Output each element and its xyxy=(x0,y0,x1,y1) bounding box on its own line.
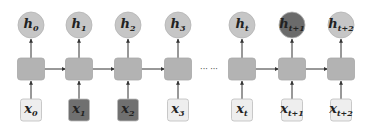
time-step-3: h3x3 xyxy=(165,12,192,121)
rnn-cell xyxy=(165,58,192,80)
time-step-t+2: ht+2xt+2 xyxy=(328,12,355,121)
time-step-2: h2x2 xyxy=(115,12,165,121)
rnn-cell xyxy=(279,58,306,80)
rnn-cell xyxy=(328,58,355,80)
time-steps: h0x0h1x1h2x2h3x3htxtht+1xt+1ht+2xt+2 xyxy=(18,12,355,121)
time-step-t: htxt xyxy=(229,12,279,121)
ellipsis-gap: ··· ··· xyxy=(200,65,218,74)
rnn-unrolled-diagram: h0x0h1x1h2x2h3x3htxtht+1xt+1ht+2xt+2 ···… xyxy=(0,0,368,130)
rnn-cell xyxy=(115,58,142,80)
rnn-cell xyxy=(18,58,45,80)
time-step-1: h1x1 xyxy=(66,12,115,121)
time-step-0: h0x0 xyxy=(18,12,66,121)
rnn-cell xyxy=(229,58,256,80)
time-step-t+1: ht+1xt+1 xyxy=(279,12,328,121)
rnn-cell xyxy=(66,58,93,80)
